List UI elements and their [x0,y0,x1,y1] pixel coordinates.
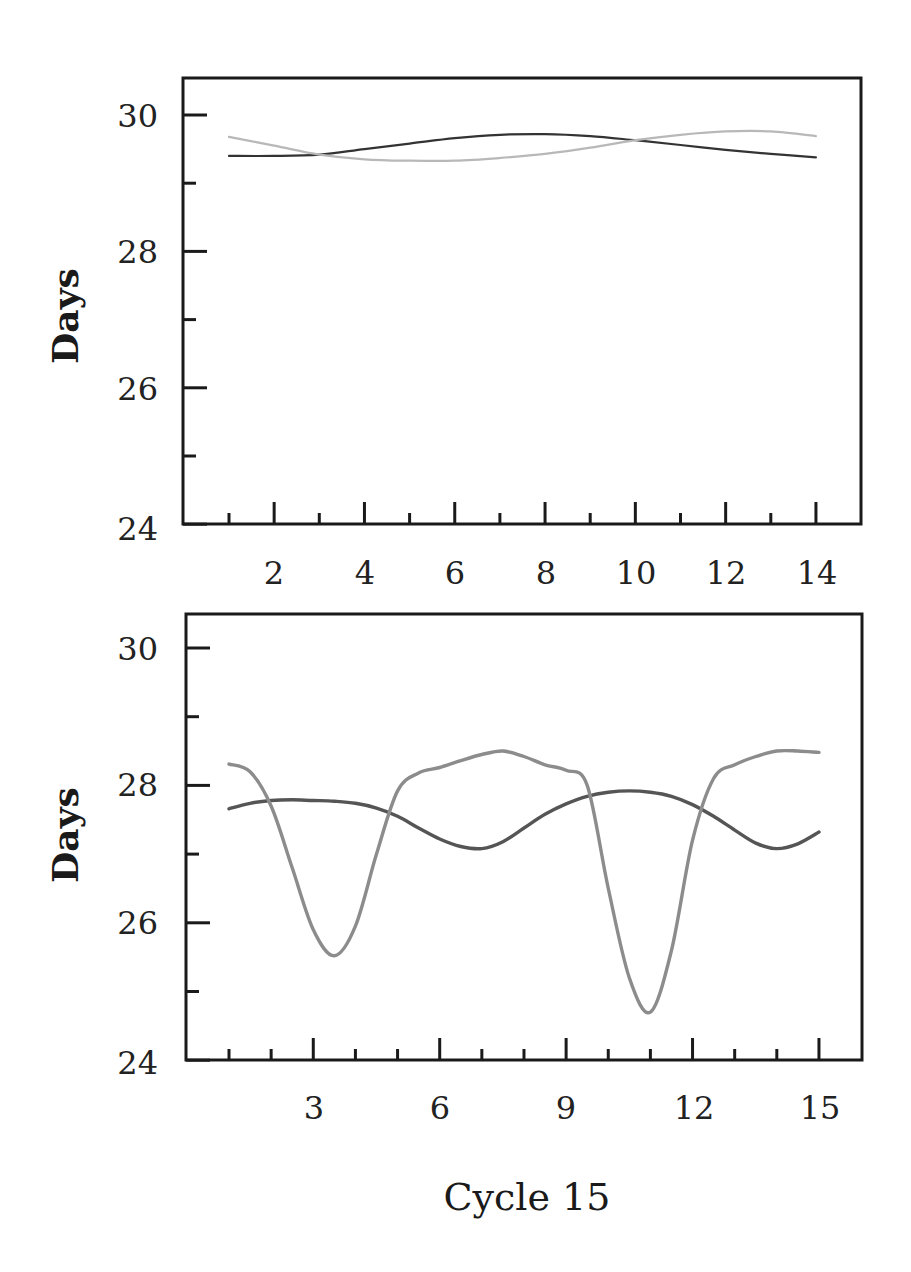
bottom-y-ticks [186,648,210,1060]
bottom-ytick-28: 28 [117,766,158,804]
top-y-ticks [183,115,207,524]
top-chart-panel: 30 28 26 24 2 4 6 8 10 12 14 Days [44,78,861,592]
top-series-lines [229,131,816,161]
top-xtick-10: 10 [616,554,657,592]
bottom-x-axis-title: Cycle 15 [444,1175,611,1219]
bottom-y-axis-title: Days [44,787,86,883]
top-xtick-12: 12 [706,554,747,592]
bottom-series-lines [229,751,819,1013]
bottom-xtick-12: 12 [674,1089,715,1127]
bottom-xtick-9: 9 [556,1089,576,1127]
top-ytick-30: 30 [117,97,158,135]
top-ytick-28: 28 [117,233,158,271]
top-xtick-6: 6 [445,554,465,592]
top-x-tick-labels: 2 4 6 8 10 12 14 [264,554,838,592]
bottom-y-tick-labels: 30 28 26 24 [117,630,158,1082]
bottom-ytick-26: 26 [117,904,158,942]
bottom-series-light-line [229,751,819,1013]
bottom-ytick-30: 30 [117,630,158,668]
top-xtick-8: 8 [536,554,556,592]
bottom-series-dark-line [229,791,819,849]
top-xtick-14: 14 [797,554,838,592]
bottom-xtick-6: 6 [430,1089,450,1127]
bottom-x-tick-labels: 3 6 9 12 15 [304,1089,841,1127]
top-ytick-24: 24 [117,510,158,548]
bottom-xtick-3: 3 [304,1089,324,1127]
top-x-ticks [229,502,816,524]
bottom-plot-frame [186,614,862,1060]
figure: 30 28 26 24 2 4 6 8 10 12 14 Days 30 28 … [0,0,911,1272]
bottom-ytick-24: 24 [117,1044,158,1082]
top-xtick-2: 2 [264,554,284,592]
top-ytick-26: 26 [117,370,158,408]
bottom-x-ticks [229,1038,819,1060]
bottom-chart-panel: 30 28 26 24 3 6 9 12 15 Days Cycle 15 [44,614,862,1219]
top-xtick-4: 4 [355,554,375,592]
top-plot-frame [183,78,861,524]
top-y-tick-labels: 30 28 26 24 [117,97,158,548]
top-series-light-line [229,131,816,161]
top-y-axis-title: Days [44,268,86,364]
bottom-xtick-15: 15 [800,1089,841,1127]
